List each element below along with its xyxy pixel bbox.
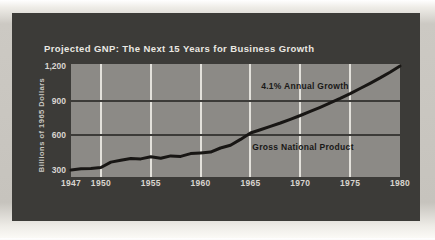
x-tick-label: 1980 xyxy=(390,178,410,188)
chart-title: Projected GNP: The Next 15 Years for Bus… xyxy=(44,43,314,54)
y-tick-label: 600 xyxy=(26,130,66,140)
x-tick-label: 1970 xyxy=(290,178,310,188)
y-tick-label: 1,200 xyxy=(26,61,66,71)
x-tick-label: 1975 xyxy=(340,178,360,188)
x-tick-label: 1965 xyxy=(240,178,260,188)
gnp-line-series xyxy=(71,64,400,177)
scanned-page: Projected GNP: The Next 15 Years for Bus… xyxy=(0,0,435,238)
gnp-chart-panel: Projected GNP: The Next 15 Years for Bus… xyxy=(12,13,420,221)
annotation-annual-growth: 4.1% Annual Growth xyxy=(261,81,349,91)
x-tick-label: 1950 xyxy=(91,178,111,188)
x-tick-label: 1960 xyxy=(191,178,211,188)
x-tick-label: 1947 xyxy=(61,178,81,188)
y-tick-label: 900 xyxy=(26,96,66,106)
plot-area: 4.1% Annual Growth Gross National Produc… xyxy=(71,64,400,177)
annotation-series-label: Gross National Product xyxy=(252,142,354,152)
y-tick-label: 300 xyxy=(26,165,66,175)
series-line xyxy=(71,66,400,170)
x-tick-label: 1955 xyxy=(141,178,161,188)
